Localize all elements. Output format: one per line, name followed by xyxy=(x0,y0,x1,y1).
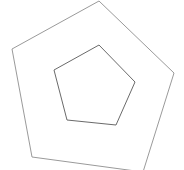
pentagons-figure xyxy=(0,0,184,170)
figure-background xyxy=(0,0,184,170)
figure-canvas xyxy=(0,0,184,170)
